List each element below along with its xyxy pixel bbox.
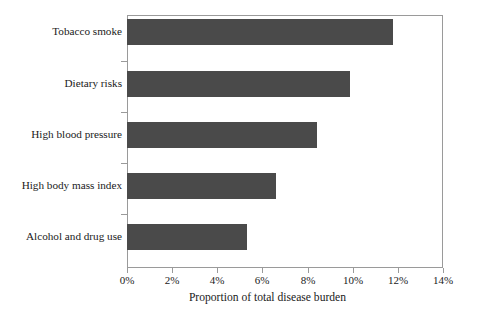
bar-3 [127, 122, 317, 148]
bar-1 [127, 19, 393, 45]
category-label: High body mass index [22, 179, 122, 192]
bar-2 [127, 71, 350, 97]
x-axis-tick-label: 14% [423, 274, 463, 286]
x-axis-tick-label: 2% [152, 274, 192, 286]
x-axis-tick-label: 0% [107, 274, 147, 286]
x-axis-tick [262, 268, 263, 273]
x-axis-title: Proportion of total disease burden [0, 291, 477, 304]
y-axis-tick [121, 163, 127, 164]
category-label: Tobacco smoke [52, 25, 122, 38]
x-axis-tick [443, 268, 444, 273]
x-axis-tick [217, 268, 218, 273]
category-label: Alcohol and drug use [26, 230, 122, 243]
bar-5 [127, 224, 247, 250]
x-axis-tick-label: 12% [378, 274, 418, 286]
x-axis-tick [353, 268, 354, 273]
x-axis-tick-label: 10% [333, 274, 373, 286]
x-axis-tick [172, 268, 173, 273]
x-axis-tick [308, 268, 309, 273]
x-axis-tick-label: 8% [288, 274, 328, 286]
y-axis-tick [121, 214, 127, 215]
x-axis-tick [127, 268, 128, 273]
x-axis-tick-label: 4% [197, 274, 237, 286]
category-label: High blood pressure [31, 128, 122, 141]
bar-chart: Tobacco smokeDietary risksHigh blood pre… [0, 0, 477, 319]
x-axis-tick [398, 268, 399, 273]
bar-4 [127, 173, 276, 199]
y-axis-tick [121, 112, 127, 113]
x-axis-tick-label: 6% [242, 274, 282, 286]
category-label: Dietary risks [65, 77, 122, 90]
y-axis-tick [121, 61, 127, 62]
